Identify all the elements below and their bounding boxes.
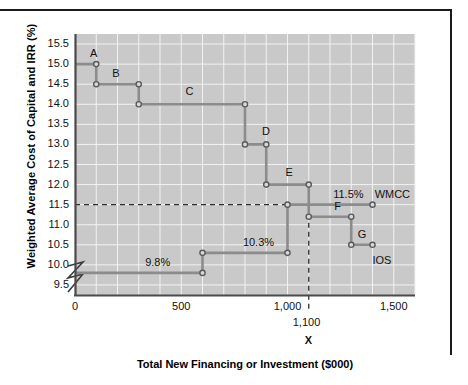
data-point-marker [200,270,205,275]
project-a-label: A [90,47,97,59]
x-tick-label: 1,500 [369,300,419,312]
chart-figure: Weighted Average Cost of Capital and IRR… [0,0,468,385]
data-point-marker [370,202,375,207]
wacc-9-8-label: 9.8% [145,256,170,268]
data-point-marker [94,62,99,67]
project-f-label: F [334,200,341,212]
y-tick-label: 12.0 [33,178,69,190]
y-tick-label: 11.0 [33,218,69,230]
y-tick-label: 10.5 [33,238,69,250]
y-tick-label: 12.5 [33,158,69,170]
data-point-marker [200,250,205,255]
x-tick-label: 0 [50,300,100,312]
optimal-budget-label: 1,100 [293,316,321,328]
data-point-marker [285,202,290,207]
data-point-marker [264,142,269,147]
y-tick-label: 9.5 [33,278,69,290]
y-tick-label: 11.5 [33,198,69,210]
data-point-marker [242,102,247,107]
wacc-10-3-label: 10.3% [243,236,274,248]
x-tick-label: 1,000 [263,300,313,312]
wacc-11-5-label: 11.5% [333,188,363,200]
y-tick-label: 13.0 [33,137,69,149]
wmcc-curve-label: WMCC [375,188,410,200]
y-tick-label: 14.5 [33,77,69,89]
project-c-label: C [186,85,194,97]
data-point-marker [264,182,269,187]
y-tick-label: 14.0 [33,97,69,109]
project-e-label: E [285,166,292,178]
ios-curve-label: IOS [373,254,392,266]
data-point-marker [136,82,141,87]
project-d-label: D [262,125,270,137]
data-point-marker [349,214,354,219]
y-tick-label: 15.5 [33,37,69,49]
y-tick-label: 13.5 [33,117,69,129]
data-point-marker [136,102,141,107]
project-b-label: B [112,67,119,79]
project-g-label: G [358,228,367,240]
data-point-marker [242,142,247,147]
x-tick-label: 500 [156,300,206,312]
y-tick-label: 10.0 [33,258,69,270]
data-point-marker [370,242,375,247]
data-point-marker [94,82,99,87]
data-point-marker [306,214,311,219]
data-point-marker [349,242,354,247]
data-point-marker [285,250,290,255]
y-tick-label: 15.0 [33,57,69,69]
data-point-marker [306,182,311,187]
optimal-budget-x-marker: X [305,334,312,346]
